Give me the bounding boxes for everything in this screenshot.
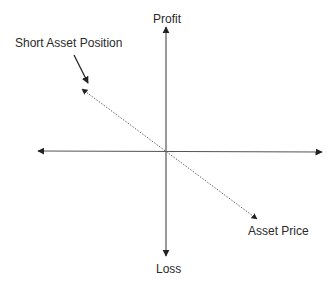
loss-axis-label: Loss xyxy=(156,262,181,276)
annotation-pointer-arrow xyxy=(74,55,88,83)
short-position-payoff-line xyxy=(82,89,257,219)
x-axis xyxy=(38,151,322,152)
profit-axis-label: Profit xyxy=(153,12,181,26)
asset-price-label: Asset Price xyxy=(248,224,309,238)
short-asset-position-label: Short Asset Position xyxy=(15,36,122,50)
